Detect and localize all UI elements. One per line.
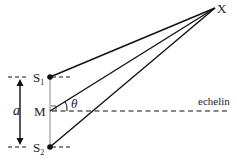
ray-s2-x bbox=[50, 8, 215, 147]
a-arrow-down-icon bbox=[17, 138, 24, 145]
s1-point bbox=[47, 74, 53, 80]
double-slit-diagram: X S1 S2 M θ a echelin bbox=[0, 0, 237, 162]
theta-arc bbox=[65, 101, 67, 111]
label-s2: S2 bbox=[33, 140, 44, 157]
a-arrow-up-icon bbox=[17, 79, 24, 86]
label-a: a bbox=[13, 103, 20, 118]
label-x: X bbox=[217, 1, 227, 16]
label-theta: θ bbox=[71, 96, 78, 111]
s2-point bbox=[47, 144, 53, 150]
label-s1: S1 bbox=[33, 70, 44, 87]
label-m: M bbox=[34, 104, 46, 119]
label-echelin: echelin bbox=[198, 95, 230, 107]
ray-s1-x bbox=[50, 8, 215, 77]
